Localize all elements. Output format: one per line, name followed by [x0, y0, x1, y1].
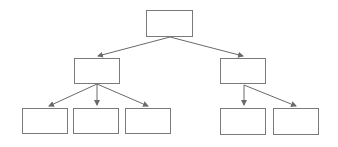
node-box-right-2	[273, 108, 319, 135]
node-label	[74, 109, 118, 133]
edge-arrow-root-to-left	[98, 37, 170, 56]
node-label	[221, 59, 265, 83]
node-box-root	[146, 10, 193, 37]
node-box-left-3	[125, 108, 171, 134]
node-label	[147, 11, 192, 36]
node-label	[221, 109, 265, 134]
node-box-left-1	[22, 108, 68, 134]
tree-diagram	[0, 0, 338, 147]
edge-arrow-left-to-left-1	[49, 84, 97, 106]
node-box-right-1	[220, 108, 266, 135]
node-label	[75, 59, 119, 83]
node-label	[274, 109, 318, 134]
edge-arrow-left-to-left-3	[97, 84, 148, 106]
node-label	[23, 109, 67, 133]
node-label	[126, 109, 170, 133]
node-box-left	[74, 58, 120, 84]
edge-arrow-root-to-right	[170, 37, 243, 56]
node-box-left-2	[73, 108, 119, 134]
edge-arrow-right-to-right-2	[244, 85, 296, 106]
node-box-right	[220, 58, 266, 84]
